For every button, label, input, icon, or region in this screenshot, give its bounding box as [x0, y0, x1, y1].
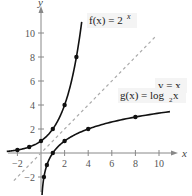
y-tick-label: 6 — [30, 76, 35, 87]
x-tick-label: 4 — [86, 158, 91, 169]
x-axis-arrow-icon — [171, 151, 178, 156]
labels: xy−2246810−2246810f(x) = 2xy = xg(x) = l… — [12, 0, 187, 183]
x-axis-label: x — [181, 147, 187, 159]
f-point — [62, 103, 66, 107]
chart: xy−2246810−2246810f(x) = 2xy = xg(x) = l… — [0, 0, 192, 196]
g-point — [133, 115, 137, 119]
g-point — [45, 163, 49, 167]
y-tick-label: −2 — [24, 172, 35, 183]
x-tick-label: 10 — [154, 158, 164, 169]
y-tick-label: 10 — [25, 28, 35, 39]
g-point — [51, 151, 55, 155]
y-tick-label: 2 — [30, 124, 35, 135]
f-curve — [7, 22, 82, 152]
g-point — [42, 175, 46, 179]
x-tick-label: 2 — [62, 158, 67, 169]
f-label-sup: x — [126, 12, 131, 21]
f-point — [15, 148, 19, 152]
g-label-tail: x — [173, 89, 179, 101]
y-tick-label: 8 — [30, 52, 35, 63]
x-tick-label: 8 — [133, 158, 138, 169]
g-point — [86, 127, 90, 131]
x-tick-label: −2 — [12, 158, 23, 169]
f-point — [39, 139, 43, 143]
f-point — [74, 55, 78, 59]
f-point — [51, 127, 55, 131]
f-point — [27, 145, 31, 149]
f-label: f(x) = 2 — [89, 14, 123, 27]
g-point — [62, 139, 66, 143]
y-tick-label: 4 — [30, 100, 35, 111]
y-axis-label: y — [37, 0, 43, 8]
g-label: g(x) = log — [120, 89, 165, 102]
x-tick-label: 6 — [109, 158, 114, 169]
